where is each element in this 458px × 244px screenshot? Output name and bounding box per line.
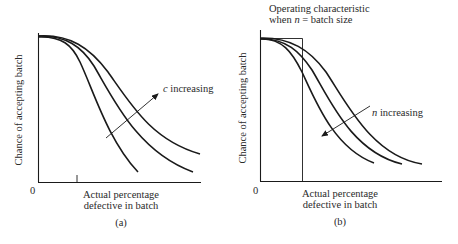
y-axis-label-a: Chance of accepting batch xyxy=(13,54,24,166)
c-increasing-label: c increasing xyxy=(163,83,214,94)
x-axis-label-b-line1: Actual percentage xyxy=(302,188,378,199)
caption-b: (b) xyxy=(334,216,347,228)
oc-curve-b-1 xyxy=(260,39,374,163)
oc-title-line1: Operating characteristic xyxy=(269,3,370,14)
origin-label-a: 0 xyxy=(30,185,35,196)
x-axis-label-b-line2: defective in batch xyxy=(303,199,378,210)
x-axis-label-a-line2: defective in batch xyxy=(84,200,159,211)
n-increasing-label: n increasing xyxy=(372,107,424,118)
caption-a: (a) xyxy=(115,217,127,229)
oc-curve-a-2 xyxy=(38,36,193,172)
y-axis-label-b: Chance of accepting batch xyxy=(237,52,248,164)
n-increasing-arrow xyxy=(322,106,370,136)
oc-curve-b-3 xyxy=(260,38,422,164)
panel-a: c increasing Chance of accepting batch 0… xyxy=(13,33,214,229)
figure-canvas: c increasing Chance of accepting batch 0… xyxy=(0,0,458,244)
origin-label-b: 0 xyxy=(253,185,258,196)
x-axis-label-a-line1: Actual percentage xyxy=(83,189,159,200)
oc-curve-a-3 xyxy=(38,36,200,154)
oc-title-line2: when n = batch size xyxy=(269,14,353,25)
panel-b: Operating characteristic when n = batch … xyxy=(237,3,442,228)
